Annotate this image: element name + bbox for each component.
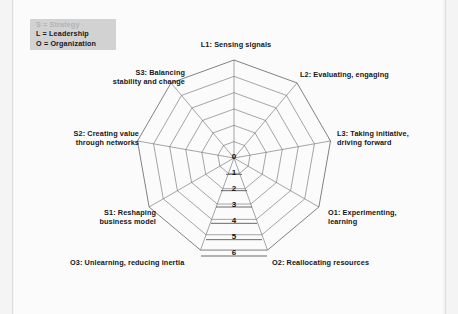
axis-label-l3: L3: Taking initiative, driving forward	[337, 129, 427, 148]
axis-label-s1: S1: Reshaping business model	[66, 208, 156, 227]
axis-label-s2: S2: Creating value through networks	[46, 129, 139, 148]
axis-label-s3: S3: Balancing stability and change	[84, 68, 185, 87]
legend-row-strategy: S = Strategy	[36, 20, 111, 29]
radial-tick-5: 5	[227, 232, 241, 241]
axis-label-l1: L1: Sensing signals	[192, 40, 280, 49]
radial-tick-4: 4	[227, 216, 241, 225]
radar-spoke-S1	[149, 158, 234, 207]
radar-chart-screenshot: S = Strategy L = Leadership O = Organiza…	[0, 0, 458, 314]
radar-spoke-L2	[234, 83, 297, 158]
radial-tick-0: 0	[227, 152, 241, 161]
radial-tick-1: 1	[227, 168, 241, 177]
radial-tick-2: 2	[227, 184, 241, 193]
axis-label-l2: L2: Evaluating, engaging	[300, 70, 408, 79]
radar-spoke-L3	[234, 141, 331, 158]
dimension-key: S = Strategy L = Leadership O = Organiza…	[30, 19, 116, 50]
axis-label-o1: O1: Experimenting, learning	[328, 208, 416, 227]
radar-spoke-S2	[137, 141, 234, 158]
legend-row-leadership: L = Leadership	[36, 29, 111, 39]
axis-label-o3: O3: Unlearning, reducing inertia	[70, 258, 200, 267]
legend-row-organization: O = Organization	[36, 39, 111, 49]
radar-spoke-O1	[234, 158, 319, 207]
axis-label-o2: O2: Reallocating resources	[272, 258, 388, 267]
radial-tick-3: 3	[227, 200, 241, 209]
radar-spoke-S3	[171, 83, 234, 158]
radial-tick-6: 6	[227, 248, 241, 257]
